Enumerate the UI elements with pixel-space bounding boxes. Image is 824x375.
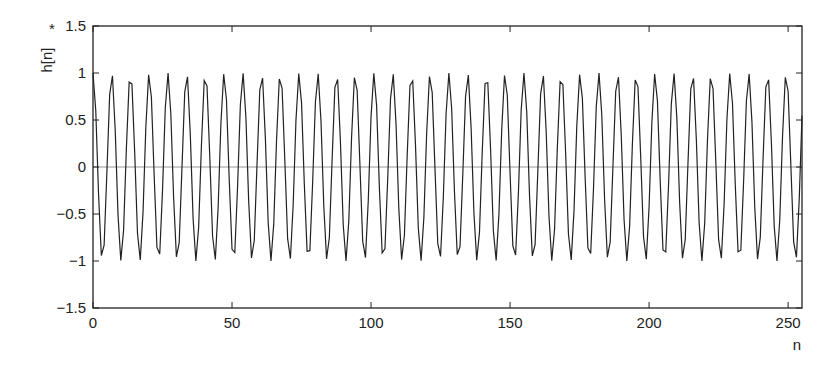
y-tick-label: 0 <box>78 158 86 175</box>
x-tick-label: 50 <box>224 314 241 331</box>
x-tick-label: 250 <box>776 314 801 331</box>
y-tick-label: 0.5 <box>65 111 86 128</box>
y-tick-label: −0.5 <box>56 205 86 222</box>
x-axis-ticks: 050100150200250 <box>89 26 801 331</box>
y-axis-ticks: 1.510.50−0.5−1−1.5 <box>56 17 802 316</box>
y-tick-label: 1 <box>78 64 86 81</box>
x-tick-label: 0 <box>89 314 97 331</box>
y-tick-label: 1.5 <box>65 17 86 34</box>
y-axis-label: h[n] <box>38 47 55 72</box>
y-tick-label: −1 <box>69 252 86 269</box>
x-axis-label: n <box>793 336 801 353</box>
x-tick-label: 200 <box>637 314 662 331</box>
x-tick-label: 150 <box>498 314 523 331</box>
x-tick-label: 100 <box>359 314 384 331</box>
y-axis-label-marker: * <box>49 20 55 37</box>
chart: 050100150200250 1.510.50−0.5−1−1.5 n h[n… <box>0 0 824 375</box>
y-tick-label: −1.5 <box>56 299 86 316</box>
